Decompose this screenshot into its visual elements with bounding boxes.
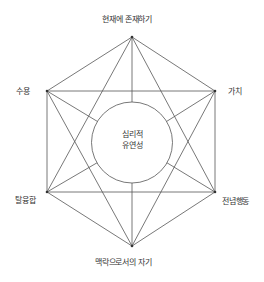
- node-label-bottom-right: 전념행동: [222, 197, 249, 207]
- spoke-bottom-left: [47, 163, 98, 193]
- node-label-top: 현재에 존재하기: [102, 15, 152, 25]
- spoke-bottom-right: [167, 163, 216, 193]
- node-label-top-right: 가치: [228, 87, 242, 97]
- node-label-bottom: 맥락으로서의 자기: [95, 258, 152, 268]
- center-label: 심리적 유연성: [102, 129, 162, 151]
- node-label-bottom-left: 탈융합: [15, 196, 35, 206]
- spoke-top-left: [47, 91, 98, 122]
- center-label-line1: 심리적: [102, 129, 162, 140]
- center-label-line2: 유연성: [102, 140, 162, 151]
- hexaflex-diagram: 현재에 존재하기 가치 전념행동 맥락으로서의 자기 탈융합 수용 심리적 유연…: [0, 0, 264, 282]
- spoke-top-right: [167, 91, 216, 122]
- node-label-top-left: 수용: [16, 87, 30, 97]
